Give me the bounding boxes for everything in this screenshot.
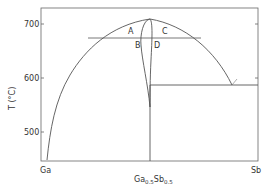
x-label-compound: Ga0.5Sb0.5 <box>134 175 173 185</box>
phase-diagram: 700 600 500 T (°C) A B C D Ga Sb Ga0.5Sb… <box>0 0 269 193</box>
x-label-sb: Sb <box>251 166 261 175</box>
point-label-A: A <box>128 27 134 36</box>
point-label-B: B <box>135 41 141 50</box>
y-tick-label-700: 700 <box>24 20 39 29</box>
plot-frame <box>41 8 258 161</box>
solidus-loop-left <box>141 19 150 107</box>
point-label-C: C <box>162 27 168 36</box>
y-tick-label-500: 500 <box>24 128 39 137</box>
y-tick-label-600: 600 <box>24 74 39 83</box>
point-label-D: D <box>154 41 160 50</box>
y-axis-label: T (°C) <box>8 87 17 111</box>
eutectic-marker <box>232 79 237 85</box>
x-label-ga: Ga <box>40 166 51 175</box>
